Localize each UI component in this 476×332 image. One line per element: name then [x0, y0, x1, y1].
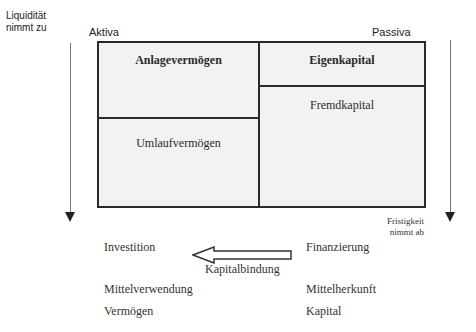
- passiva-heading: Passiva: [372, 26, 411, 38]
- assets-divider: [99, 117, 258, 119]
- balance-sheet: Anlagevermögen Umlaufvermögen Eigenkapit…: [97, 41, 426, 208]
- kapital-label: Kapital: [306, 304, 341, 319]
- finanzierung-label: Finanzierung: [306, 240, 369, 255]
- liquidity-arrow-line: [70, 43, 71, 213]
- investition-label: Investition: [104, 240, 155, 255]
- vermoegen-label: Vermögen: [104, 304, 153, 319]
- maturity-label: Fristigkeit nimmt ab: [376, 216, 424, 238]
- liquidity-label: Liquidität nimmt zu: [6, 10, 47, 34]
- maturity-arrow-line: [450, 40, 451, 214]
- maturity-label-line1: Fristigkeit: [376, 216, 424, 227]
- umlaufvermoegen-cell: Umlaufvermögen: [99, 136, 258, 151]
- fremdkapital-cell: Fremdkapital: [260, 98, 424, 113]
- kapitalbindung-label: Kapitalbindung: [205, 262, 280, 277]
- liquidity-arrow-head-icon: [65, 212, 75, 222]
- liabilities-divider: [260, 85, 424, 87]
- aktiva-heading: Aktiva: [89, 26, 119, 38]
- maturity-label-line2: nimmt ab: [376, 227, 424, 238]
- mittelherkunft-label: Mittelherkunft: [306, 282, 376, 297]
- maturity-arrow-head-icon: [445, 212, 455, 222]
- anlagevermoegen-cell: Anlagevermögen: [99, 53, 258, 68]
- mittelverwendung-label: Mittelverwendung: [104, 282, 193, 297]
- eigenkapital-cell: Eigenkapital: [260, 53, 424, 68]
- liquidity-label-line1: Liquidität: [6, 10, 47, 22]
- liquidity-label-line2: nimmt zu: [6, 22, 47, 34]
